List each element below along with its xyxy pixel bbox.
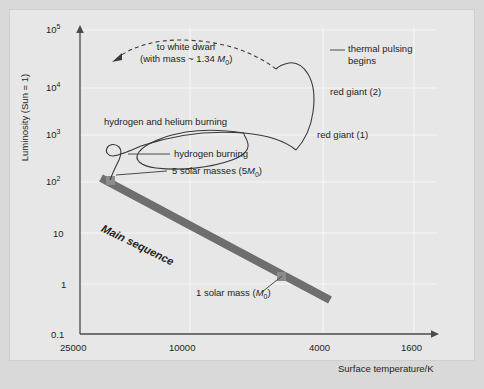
y-tick-0-1: 0.1: [51, 329, 64, 340]
to-white-dwarf-line1: to white dwarf: [140, 41, 232, 53]
x-tick-4000: 4000: [309, 342, 330, 353]
figure-page: Luminosity (Sun = 1) 105 104 103 102 10 …: [0, 0, 484, 389]
y-tick-1e2: 102: [46, 176, 60, 187]
to-white-dwarf-line2: (with mass ~ 1.34 M0): [140, 53, 232, 65]
y-tick-1: 1: [61, 279, 66, 290]
x-tick-10000: 10000: [169, 342, 195, 353]
y-tick-1e5: 105: [46, 24, 60, 35]
x-tick-25000: 25000: [60, 342, 86, 353]
one-solar-mass-suffix: ): [267, 287, 270, 298]
y-tick-1e3: 103: [46, 129, 60, 140]
annotation-one-solar-mass: 1 solar mass (M0): [196, 287, 271, 299]
to-white-dwarf-mass-prefix: (with mass ~ 1.34: [140, 53, 217, 64]
y-axis-arrow: [76, 25, 84, 33]
x-axis-arrow: [431, 330, 439, 338]
thermal-pulsing-line2: begins: [348, 55, 412, 67]
leader-five-solar-masses: [116, 171, 167, 175]
y-axis-title: Luminosity (Sun = 1): [19, 63, 30, 173]
annotation-thermal-pulsing: thermal pulsing begins: [348, 43, 412, 67]
annotation-to-white-dwarf: to white dwarf (with mass ~ 1.34 M0): [140, 41, 232, 65]
y-tick-10: 10: [53, 228, 64, 239]
white-dwarf-arrowhead: [112, 53, 122, 62]
annotation-red-giant-2: red giant (2): [330, 86, 381, 98]
annotation-red-giant-1: red giant (1): [317, 129, 368, 141]
x-tick-1600: 1600: [401, 342, 422, 353]
thermal-pulsing-line1: thermal pulsing: [348, 43, 412, 55]
five-solar-masses-prefix: 5 solar masses (5: [172, 165, 247, 176]
annotation-hydrogen-burning: hydrogen burning: [174, 148, 248, 160]
one-solar-mass-symbol: M: [256, 287, 264, 298]
annotation-five-solar-masses: 5 solar masses (5M0): [172, 165, 262, 177]
y-tick-1e4: 104: [46, 82, 60, 93]
x-axis-title: Surface temperature/K: [338, 363, 434, 374]
one-solar-mass-prefix: 1 solar mass (: [196, 287, 256, 298]
five-solar-masses-symbol: M: [247, 165, 255, 176]
annotation-hydrogen-helium-burning: hydrogen and helium burning: [104, 116, 227, 128]
to-white-dwarf-mass-suffix: ): [229, 53, 232, 64]
five-solar-masses-suffix: ): [259, 165, 262, 176]
